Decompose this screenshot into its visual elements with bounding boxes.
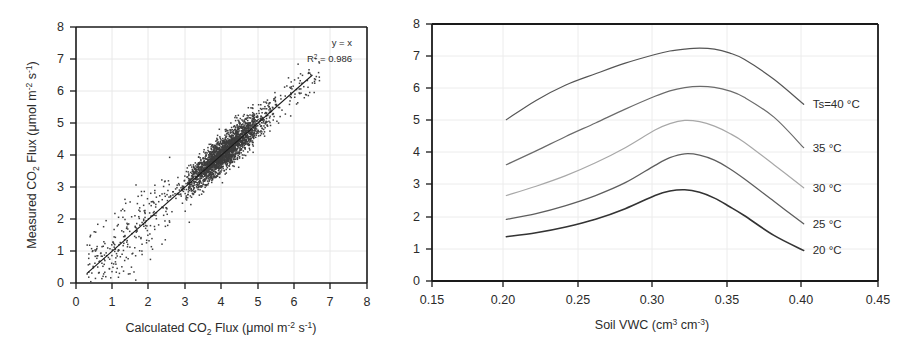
sx-mid2: s (295, 321, 305, 335)
curves-ytick-7: 7 (413, 49, 420, 63)
fit-line-1to1 (87, 75, 313, 273)
scatter-xtick-1: 1 (109, 295, 116, 309)
scatter-x-tick-labels: 0 1 2 3 4 5 6 7 8 (73, 295, 371, 309)
curve-label-3: 25 °C (813, 218, 842, 230)
scatter-xtick-3: 3 (182, 295, 189, 309)
response-curves-panel: 8 7 6 5 4 3 2 1 0 0.15 0.20 0.25 0.30 0.… (400, 0, 923, 350)
scatter-y-tick-labels: 8 7 6 5 4 3 2 1 0 (57, 20, 64, 290)
sx-pre: Calculated CO (125, 321, 207, 335)
curves-gridlines (432, 24, 878, 281)
curve-label-4: 20 °C (813, 244, 842, 256)
scatter-xtick-5: 5 (255, 295, 262, 309)
scatter-x-axis-title: Calculated CO2 Flux (μmol m-2 s-1) (125, 320, 316, 337)
annotation-equation: y = x (332, 37, 353, 48)
curves-ytick-4: 4 (413, 145, 420, 159)
curves-x-axis-title: Soil VWC (cm3 cm-3) (595, 317, 709, 332)
scatter-ytick-4: 4 (57, 148, 64, 162)
scatter-xtick-8: 8 (364, 295, 371, 309)
curve-label-0: Ts=40 °C (813, 98, 860, 110)
curves-ytick-1: 1 (413, 242, 420, 256)
curves-xtick-3: 0.30 (640, 293, 664, 307)
cx-pre: Soil VWC (cm (595, 318, 673, 332)
sy-mid2: s (25, 73, 39, 83)
cx-post: ) (705, 318, 709, 332)
curve-end-labels: Ts=40 °C35 °C30 °C25 °C20 °C (813, 98, 860, 256)
scatter-ytick-6: 6 (57, 84, 64, 98)
scatter-xtick-2: 2 (145, 295, 152, 309)
curve-4 (506, 190, 803, 251)
curves-xtick-4: 0.35 (715, 293, 739, 307)
curves-x-tick-labels: 0.15 0.20 0.25 0.30 0.35 0.40 0.45 (420, 293, 890, 307)
scatter-ytick-8: 8 (57, 20, 64, 34)
scatter-ytick-3: 3 (57, 180, 64, 194)
curves-ytick-2: 2 (413, 210, 420, 224)
curve-label-2: 30 °C (813, 182, 842, 194)
scatter-point-cloud (86, 58, 320, 283)
scatter-xtick-6: 6 (291, 295, 298, 309)
cx-mid: cm (677, 318, 697, 332)
sx-mid: Flux (μmol m (212, 321, 288, 335)
scatter-ytick-7: 7 (57, 52, 64, 66)
scatter-xtick-4: 4 (218, 295, 225, 309)
scatter-xtick-7: 7 (327, 295, 334, 309)
curves-xtick-0: 0.15 (420, 293, 444, 307)
curves-xtick-1: 0.20 (491, 293, 515, 307)
scatter-x-ticks (76, 283, 367, 289)
sy-post: ) (25, 61, 39, 65)
curves-xtick-2: 0.25 (566, 293, 590, 307)
scatter-panel: 8 7 6 5 4 3 2 1 0 0 1 2 3 4 5 6 7 8 (0, 0, 400, 350)
curves-ytick-3: 3 (413, 177, 420, 191)
curves-svg: 8 7 6 5 4 3 2 1 0 0.15 0.20 0.25 0.30 0.… (400, 0, 923, 350)
curve-3 (506, 154, 803, 224)
curves-ytick-6: 6 (413, 81, 420, 95)
scatter-y-axis-title: Measured CO2 Flux (μmol m-2 s-1) (24, 61, 41, 249)
scatter-ytick-0: 0 (57, 276, 64, 290)
sy-pre: Measured CO (25, 171, 39, 249)
scatter-y-ticks (70, 27, 76, 283)
curves-xtick-6: 0.45 (866, 293, 890, 307)
scatter-svg: 8 7 6 5 4 3 2 1 0 0 1 2 3 4 5 6 7 8 (0, 0, 400, 350)
curves-ytick-5: 5 (413, 113, 420, 127)
sx-post: ) (312, 321, 316, 335)
curves-ytick-8: 8 (413, 17, 420, 31)
annotation-r2-post: = 0.986 (317, 53, 352, 64)
scatter-ytick-1: 1 (57, 244, 64, 258)
temperature-response-curves (506, 48, 803, 250)
curves-y-tick-labels: 8 7 6 5 4 3 2 1 0 (413, 17, 420, 288)
curve-0 (506, 48, 803, 120)
sy-mid: Flux (μmol m (25, 90, 39, 166)
scatter-xtick-0: 0 (73, 295, 80, 309)
curves-ytick-0: 0 (413, 274, 420, 288)
figure-container: 8 7 6 5 4 3 2 1 0 0 1 2 3 4 5 6 7 8 (0, 0, 923, 350)
curve-label-1: 35 °C (813, 142, 842, 154)
scatter-ytick-2: 2 (57, 212, 64, 226)
annotation-r2: R2 = 0.986 (307, 53, 352, 64)
curves-xtick-5: 0.40 (789, 293, 813, 307)
scatter-ytick-5: 5 (57, 116, 64, 130)
